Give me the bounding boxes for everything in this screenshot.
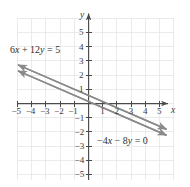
x-tick-label-4: 4 <box>143 107 148 116</box>
x-tick-label--3: −3 <box>40 107 50 116</box>
equation-label-line1: 6x + 12y = 5 <box>10 45 60 55</box>
x-tick-label-2: 2 <box>115 107 120 116</box>
eq1-plus12: + 12 <box>19 44 40 55</box>
x-tick-label-3: 3 <box>129 107 134 116</box>
y-tick-label--4: −4 <box>75 156 85 165</box>
eq2-coef-4: −4 <box>97 135 108 146</box>
x-tick-label--4: −4 <box>26 107 36 116</box>
x-axis-label: x <box>171 106 175 116</box>
y-tick-label--3: −3 <box>75 142 85 151</box>
y-tick-label-3: 3 <box>79 57 84 66</box>
eq2-equals0: = 0 <box>132 135 148 146</box>
coordinate-plane-figure: −5 −4 −3 −2 −1 1 2 3 4 5 5 4 3 2 1 −1 −2… <box>0 0 190 187</box>
y-tick-label--1: −1 <box>75 114 85 123</box>
equation-label-line2: −4x − 8y = 0 <box>97 136 148 146</box>
y-axis-label: y <box>80 11 84 21</box>
x-tick-label-5: 5 <box>157 107 162 116</box>
y-tick-label-5: 5 <box>79 28 84 37</box>
graph-canvas <box>0 0 190 187</box>
x-tick-label--2: −2 <box>54 107 64 116</box>
y-tick-label--5: −5 <box>75 170 85 179</box>
eq1-equals5: = 5 <box>45 44 61 55</box>
x-tick-label--5: −5 <box>12 107 22 116</box>
y-tick-label--2: −2 <box>75 128 85 137</box>
eq2-minus8: − 8 <box>112 135 128 146</box>
line-6x-12y-5 <box>18 65 167 129</box>
y-tick-label-2: 2 <box>79 71 84 80</box>
y-tick-label-1: 1 <box>79 85 84 94</box>
x-tick-label-1: 1 <box>100 107 105 116</box>
y-tick-label-4: 4 <box>79 43 84 52</box>
